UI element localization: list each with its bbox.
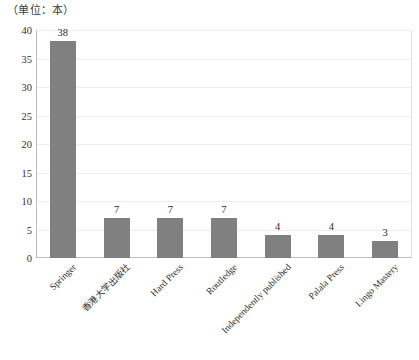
y-tick-label: 40 [0, 25, 32, 36]
y-tick-label: 0 [0, 253, 32, 264]
bar-chart: （单位：本） 0510152025303540 38777443 Springe… [0, 0, 419, 360]
bar[interactable] [104, 218, 130, 258]
bar-value-label: 4 [329, 221, 334, 233]
x-category-label: Springer [48, 262, 79, 293]
bar-group: 7 [197, 30, 251, 258]
bar-value-label: 4 [275, 221, 280, 233]
bar-group: 7 [143, 30, 197, 258]
bar-group: 4 [251, 30, 305, 258]
x-category-label: Hard Press [149, 262, 186, 299]
bar-value-label: 7 [168, 204, 173, 216]
bar-value-label: 7 [221, 204, 226, 216]
bar[interactable] [265, 235, 291, 258]
bars-layer: 38777443 [36, 30, 412, 258]
y-tick-label: 25 [0, 110, 32, 121]
unit-caption: （单位：本） [7, 3, 75, 17]
bar-group: 38 [36, 30, 90, 258]
bar[interactable] [318, 235, 344, 258]
y-tick-label: 35 [0, 53, 32, 64]
bar-value-label: 3 [383, 227, 388, 239]
y-tick-label: 10 [0, 196, 32, 207]
bar-value-label: 7 [114, 204, 119, 216]
bar-value-label: 38 [58, 27, 69, 39]
bar[interactable] [157, 218, 183, 258]
bar-group: 3 [358, 30, 412, 258]
x-axis-category-labels: Springer香港大学出版社Hard PressRoutledgeIndepe… [36, 258, 412, 358]
x-category-label: 香港大学出版社 [80, 262, 132, 314]
bar[interactable] [211, 218, 237, 258]
y-tick-label: 5 [0, 224, 32, 235]
y-tick-label: 20 [0, 139, 32, 150]
y-tick-label: 30 [0, 82, 32, 93]
y-tick-label: 15 [0, 167, 32, 178]
bar-group: 4 [305, 30, 359, 258]
x-category-label: Palala Press [307, 262, 347, 302]
bar[interactable] [50, 41, 76, 258]
bar-group: 7 [90, 30, 144, 258]
x-category-label: Routledge [204, 262, 239, 297]
bar[interactable] [372, 241, 398, 258]
x-category-label: Lingo Mastery [353, 262, 401, 310]
y-axis: 0510152025303540 [0, 30, 32, 258]
